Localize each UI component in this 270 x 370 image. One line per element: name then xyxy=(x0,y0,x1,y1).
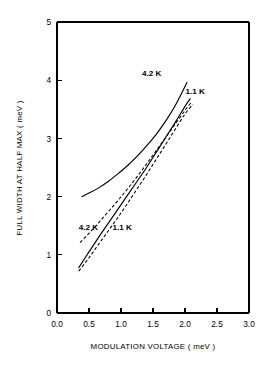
y-tick-label-5: 5 xyxy=(46,17,51,27)
annotation-4-2-k-calculated: 4.2 K xyxy=(79,223,99,232)
x-axis-tick-labels: 0.00.51.01.52.02.53.0 xyxy=(51,319,255,329)
annotation-1-1-k-measured: 1.1 K xyxy=(186,87,206,96)
x-tick-label-1.0: 1.0 xyxy=(115,319,127,329)
annotation-4-2-k-measured: 4.2 K xyxy=(142,69,162,78)
y-tick-label-1: 1 xyxy=(46,250,51,260)
y-axis-tick-labels: 012345 xyxy=(46,17,51,318)
y-axis-title: FULL WIDTH AT HALF MAX ( meV ) xyxy=(15,100,24,235)
y-tick-label-2: 2 xyxy=(46,192,51,202)
y-tick-label-3: 3 xyxy=(46,134,51,144)
y-axis-ticks xyxy=(57,22,62,313)
x-axis-ticks xyxy=(57,308,249,313)
plot-frame xyxy=(57,22,249,313)
data-curves xyxy=(79,83,193,272)
x-tick-label-3.0: 3.0 xyxy=(243,319,255,329)
fwhm-vs-modulation-voltage-chart: 0.00.51.01.52.02.53.0 012345 4.2 K1.1 K4… xyxy=(0,0,270,370)
y-tick-label-4: 4 xyxy=(46,75,51,85)
curve-1-1-k-calculated xyxy=(79,105,193,271)
x-tick-label-2.5: 2.5 xyxy=(211,319,223,329)
x-tick-label-1.5: 1.5 xyxy=(147,319,159,329)
curve-4-2-k-measured xyxy=(82,83,187,197)
annotation-1-1-k-calculated: 1.1 K xyxy=(113,223,133,232)
x-tick-label-0.0: 0.0 xyxy=(51,319,63,329)
x-axis-title: MODULATION VOLTAGE ( meV ) xyxy=(91,342,216,351)
x-tick-label-2.0: 2.0 xyxy=(179,319,191,329)
figure-container: 0.00.51.01.52.02.53.0 012345 4.2 K1.1 K4… xyxy=(0,0,270,370)
x-tick-label-0.5: 0.5 xyxy=(83,319,95,329)
curve-1-1-k-measured xyxy=(79,99,190,268)
y-tick-label-0: 0 xyxy=(46,308,51,318)
